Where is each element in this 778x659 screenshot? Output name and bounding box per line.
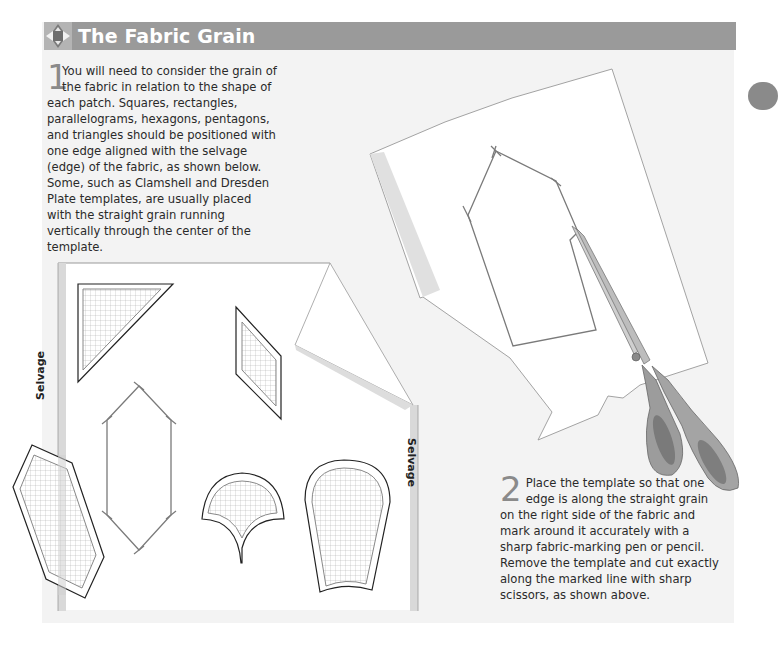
selvage-label-left: Selvage <box>34 351 47 400</box>
cutting-illustration <box>370 69 739 490</box>
fabric-layout-illustration <box>13 263 418 611</box>
selvage-label-right: Selvage <box>405 438 418 487</box>
